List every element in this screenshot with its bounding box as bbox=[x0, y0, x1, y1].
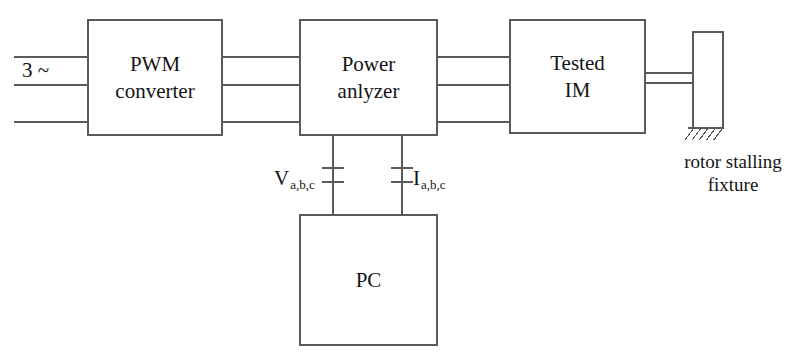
block-rect-stalling-fixture bbox=[693, 32, 723, 128]
voltage-signal-label: Va,b,c bbox=[274, 166, 314, 191]
block-rect-tested-im bbox=[510, 20, 645, 133]
voltage-subscript: a,b,c bbox=[290, 177, 315, 192]
ground-hatching-group bbox=[685, 128, 724, 140]
block-rect-pc bbox=[300, 215, 437, 345]
rotor-stalling-fixture-caption: rotor stallingfixture bbox=[663, 150, 803, 196]
block-rect-pwm-converter bbox=[88, 20, 222, 135]
current-subscript: a,b,c bbox=[421, 177, 446, 192]
ground-hatch-stroke-1 bbox=[685, 128, 694, 140]
measurement-drop-lines-group bbox=[322, 135, 413, 215]
motor-shaft-group bbox=[645, 73, 693, 83]
current-signal-label: Ia,b,c bbox=[413, 166, 445, 191]
ground-hatch-stroke-5 bbox=[714, 128, 723, 140]
current-symbol: I bbox=[413, 166, 420, 190]
ground-hatch-stroke-4 bbox=[707, 128, 716, 140]
block-diagram-figure: ... PWMconverter Poweranlyzer TestedIM P… bbox=[0, 0, 805, 354]
block-rect-power-analyzer bbox=[300, 20, 437, 135]
caption-line-1: rotor stalling bbox=[663, 150, 803, 173]
three-phase-source-label: 3 ~ bbox=[22, 58, 49, 83]
caption-line-2: fixture bbox=[663, 173, 803, 196]
ground-hatch-stroke-2 bbox=[692, 128, 701, 140]
voltage-symbol: V bbox=[274, 166, 289, 190]
ground-hatch-stroke-3 bbox=[699, 128, 708, 140]
